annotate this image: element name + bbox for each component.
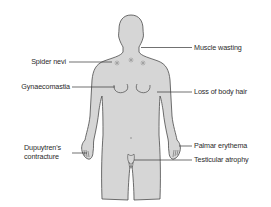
body-diagram	[0, 0, 271, 207]
label-palmar-erythema: Palmar erythema	[194, 142, 247, 150]
label-testicular-atrophy: Testicular atrophy	[194, 156, 249, 164]
label-loss-of-body-hair: Loss of body hair	[194, 88, 247, 96]
label-spider-nevi: Spider nevi	[20, 58, 66, 66]
label-dupuytrens-line2: contracture	[24, 153, 59, 161]
label-muscle-wasting: Muscle wasting	[194, 44, 242, 52]
navel	[130, 137, 132, 139]
body-outline	[82, 15, 181, 200]
label-dupuytrens-line1: Dupuytren's	[24, 144, 61, 152]
label-gynaecomastia: Gynaecomastia	[10, 83, 70, 91]
